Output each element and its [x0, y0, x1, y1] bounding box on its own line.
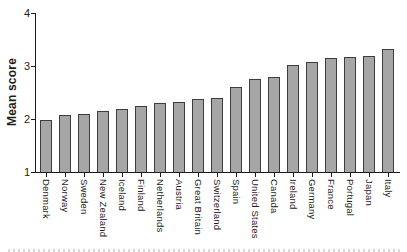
x-tick-label-austria: Austria — [173, 179, 185, 210]
x-tick-italy — [388, 173, 389, 177]
bar-chart: Mean score 1234 DenmarkNorwaySwedenNew Z… — [0, 0, 407, 252]
x-tick-united-states — [255, 173, 256, 177]
x-tick-label-united-states: United States — [249, 179, 261, 239]
x-tick-austria — [179, 173, 180, 177]
bar-germany — [306, 62, 318, 172]
x-tick-great-britain — [198, 173, 199, 177]
x-tick-norway — [65, 173, 66, 177]
bar-norway — [59, 115, 71, 172]
x-tick-label-sweden: Sweden — [78, 179, 90, 215]
bar-sweden — [78, 114, 90, 172]
x-tick-label-norway: Norway — [59, 179, 71, 212]
x-tick-germany — [312, 173, 313, 177]
bar-spain — [230, 87, 242, 172]
x-tick-spain — [236, 173, 237, 177]
x-tick-label-netherlands: Netherlands — [154, 179, 166, 232]
x-tick-label-new-zealand: New Zealand — [97, 179, 109, 237]
bar-finland — [135, 106, 147, 172]
x-tick-canada — [274, 173, 275, 177]
x-tick-label-great-britain: Great Britain — [192, 179, 204, 235]
bar-japan — [363, 56, 375, 172]
x-tick-label-japan: Japan — [363, 179, 375, 206]
x-tick-new-zealand — [103, 173, 104, 177]
y-tick-label-3: 3 — [12, 60, 30, 73]
bar-great-britain — [192, 99, 204, 172]
y-tick-label-1: 1 — [12, 166, 30, 179]
y-tick-4 — [31, 13, 36, 14]
x-tick-label-denmark: Denmark — [40, 179, 52, 219]
x-tick-label-spain: Spain — [230, 179, 242, 204]
x-tick-label-italy: Italy — [382, 179, 394, 197]
x-tick-france — [331, 173, 332, 177]
x-tick-denmark — [46, 173, 47, 177]
x-tick-label-iceland: Iceland — [116, 179, 128, 211]
x-tick-label-canada: Canada — [268, 179, 280, 213]
x-tick-finland — [141, 173, 142, 177]
bar-netherlands — [154, 103, 166, 172]
y-tick-2 — [31, 119, 36, 120]
y-tick-1 — [31, 172, 36, 173]
y-axis-line — [35, 13, 36, 173]
x-tick-label-portugal: Portugal — [344, 179, 356, 216]
x-tick-label-finland: Finland — [135, 179, 147, 212]
x-tick-ireland — [293, 173, 294, 177]
x-tick-switzerland — [217, 173, 218, 177]
bar-united-states — [249, 79, 261, 172]
x-tick-label-switzerland: Switzerland — [211, 179, 223, 230]
bar-ireland — [287, 65, 299, 172]
x-tick-portugal — [350, 173, 351, 177]
y-tick-label-4: 4 — [12, 7, 30, 20]
bar-portugal — [344, 57, 356, 172]
bar-france — [325, 58, 337, 172]
y-tick-3 — [31, 66, 36, 67]
x-tick-japan — [369, 173, 370, 177]
x-tick-iceland — [122, 173, 123, 177]
bar-denmark — [40, 120, 52, 172]
bar-new-zealand — [97, 111, 109, 172]
x-tick-netherlands — [160, 173, 161, 177]
x-tick-label-germany: Germany — [306, 179, 318, 219]
x-tick-sweden — [84, 173, 85, 177]
bar-italy — [382, 49, 394, 172]
bar-canada — [268, 77, 280, 172]
bar-iceland — [116, 109, 128, 172]
x-tick-label-ireland: Ireland — [287, 179, 299, 209]
bar-switzerland — [211, 98, 223, 172]
bar-austria — [173, 102, 185, 172]
y-tick-label-2: 2 — [12, 113, 30, 126]
y-axis-title: Mean score — [5, 12, 21, 172]
x-tick-label-france: France — [325, 179, 337, 210]
